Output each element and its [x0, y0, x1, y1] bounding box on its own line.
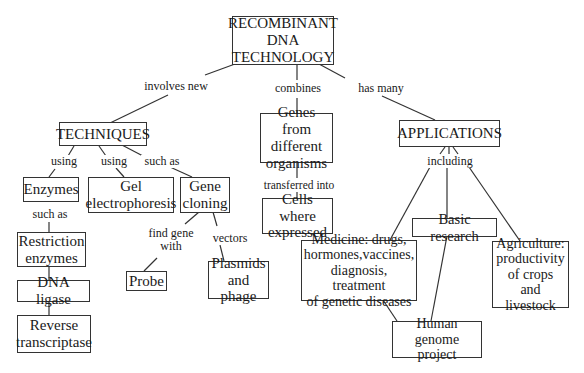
node-enzymes: Enzymes: [23, 177, 79, 202]
node-medicine: Medicine: drugs, hormones,vaccines, diag…: [301, 240, 417, 301]
link-vectors: vectors: [209, 232, 251, 245]
link-combines: combines: [270, 82, 326, 95]
node-gene-cloning: Gene cloning: [180, 177, 230, 213]
node-genes-from-different-organisms: Genes from different organisms: [260, 113, 333, 163]
node-probe: Probe: [126, 271, 167, 291]
node-restriction-enzymes: Restriction enzymes: [17, 232, 86, 267]
node-techniques: TECHNIQUES: [59, 122, 147, 146]
link-has-many: has many: [353, 82, 409, 95]
node-cells-where-expressed: Cells where expressed: [262, 198, 333, 234]
link-involves-new: involves new: [142, 80, 210, 93]
link-using-enzymes: using: [46, 155, 82, 168]
node-dna-ligase: DNA ligase: [17, 280, 90, 302]
node-basic-research: Basic research: [412, 218, 497, 237]
node-recombinant-dna-technology: RECOMBINANT DNA TECHNOLOGY: [232, 16, 334, 65]
node-agriculture: Agriculture: productivity of crops and l…: [492, 241, 569, 308]
link-such-as-cloning: such as: [141, 155, 183, 168]
link-including: including: [425, 155, 475, 168]
node-human-genome-project: Human genome project: [392, 321, 482, 358]
node-plasmids-and-phage: Plasmids and phage: [208, 261, 269, 299]
link-such-as-enzymes: such as: [28, 208, 72, 221]
node-gel-electrophoresis: Gel electrophoresis: [88, 177, 174, 213]
link-using-gel: using: [96, 155, 132, 168]
link-find-gene-with: find gene with: [144, 227, 198, 253]
node-applications: APPLICATIONS: [399, 120, 500, 147]
link-transferred-into: transferred into: [260, 179, 338, 192]
node-reverse-transcriptase: Reverse transcriptase: [17, 315, 91, 353]
